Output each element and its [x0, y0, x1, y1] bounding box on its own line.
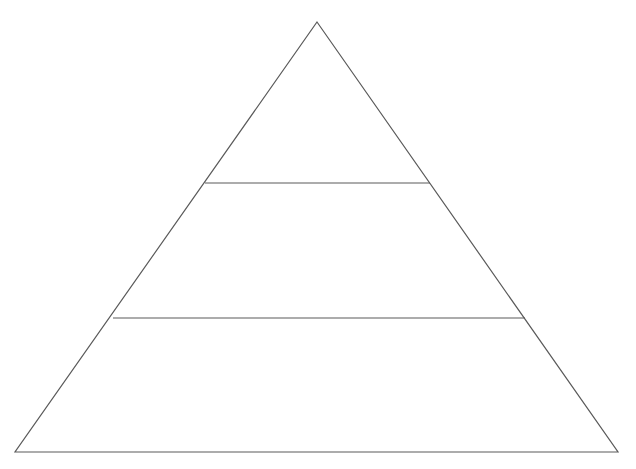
pyramid-diagram — [0, 0, 636, 469]
pyramid-diagram-canvas — [0, 0, 636, 469]
pyramid-outline — [15, 22, 618, 452]
